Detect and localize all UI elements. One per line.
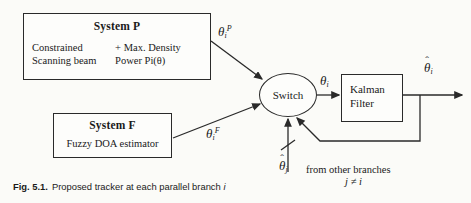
figure-caption: Fig. 5.1.Proposed tracker at each parall… [13, 181, 225, 192]
figure-canvas: System P Constrained Scanning beam + Max… [0, 0, 471, 203]
label-index-condition: j ≠ i [345, 176, 362, 187]
label-theta-i-superscript-p: θiP [218, 24, 232, 40]
label-theta-i-superscript-f: θiF [206, 126, 220, 142]
block-switch[interactable]: Switch [259, 73, 317, 117]
block-system-p[interactable]: System P Constrained Scanning beam + Max… [23, 13, 211, 80]
block-system-f[interactable]: System F Fuzzy DOA estimator [53, 113, 172, 158]
system-p-left-line2: Scanning beam [32, 54, 115, 67]
switch-label: Switch [273, 89, 304, 101]
figure-caption-symbol: i [223, 181, 225, 192]
kalman-line1: Kalman [342, 83, 402, 97]
label-other-branches: from other branches [306, 164, 391, 175]
kalman-line2: Filter [342, 97, 402, 111]
system-p-right-line1: + Max. Density [115, 41, 202, 54]
system-p-title: System P [24, 20, 210, 32]
system-p-right-column: + Max. Density Power Pi(θ) [115, 41, 202, 68]
label-theta-hat-i: ˆθi [424, 60, 433, 76]
system-p-left-column: Constrained Scanning beam [32, 41, 115, 68]
hat-accent-i: ˆ [425, 54, 429, 66]
label-theta-hat-j: ˆθj [279, 158, 288, 174]
hat-accent-j: ˆ [280, 152, 284, 164]
block-kalman-filter[interactable]: Kalman Filter [341, 74, 403, 122]
figure-number: Fig. 5.1. [13, 181, 48, 192]
wire-systemp-to-switch [211, 41, 262, 79]
label-theta-i: θi [320, 73, 329, 89]
system-p-right-line2: Power Pi(θ) [115, 54, 202, 67]
system-f-title: System F [54, 119, 171, 131]
system-f-subtitle: Fuzzy DOA estimator [54, 138, 171, 149]
figure-caption-text: Proposed tracker at each parallel branch [52, 181, 221, 192]
system-p-left-line1: Constrained [32, 41, 115, 54]
